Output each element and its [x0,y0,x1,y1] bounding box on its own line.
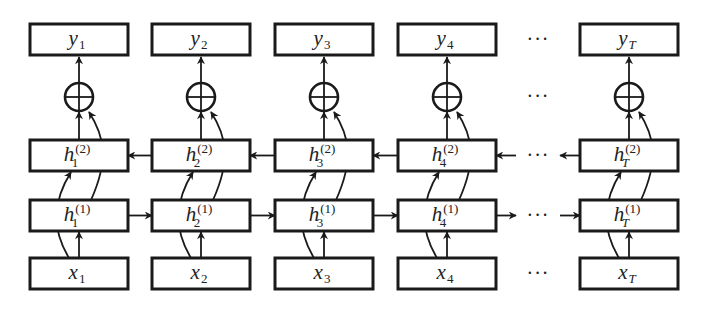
backward-hidden-node-1: h(2)1 [30,140,128,171]
combine-node-4 [433,83,461,111]
combine-node-T [615,83,643,111]
output-node-y-2: y2 [152,24,250,55]
ellipsis-marker: ··· [527,144,550,166]
input-node-x-2: x2 [152,258,250,289]
combine-node-3 [310,83,338,111]
ellipsis-marker: ··· [527,28,550,50]
combine-node-1 [65,83,93,111]
forward-hidden-node-3: h(1)3 [275,200,373,231]
output-node-y-3: y3 [275,24,373,55]
combine-node-2 [187,83,215,111]
ellipsis-marker: ··· [527,262,550,284]
backward-hidden-node-2: h(2)2 [152,140,250,171]
input-node-x-1: x1 [30,258,128,289]
input-node-x-T: xT [580,258,678,289]
backward-hidden-node-3: h(2)3 [275,140,373,171]
ellipsis-marker: ··· [527,204,550,226]
forward-hidden-node-2: h(1)2 [152,200,250,231]
output-node-y-1: y1 [30,24,128,55]
output-node-y-T: yT [580,24,678,55]
forward-hidden-node-1: h(1)1 [30,200,128,231]
forward-hidden-node-4: h(1)4 [398,200,496,231]
ellipsis-markers: ··············· [527,28,550,284]
input-node-x-3: x3 [275,258,373,289]
ellipsis-marker: ··· [527,85,550,107]
birnn-diagram: y1h(2)1h(1)1x1y2h(2)2h(1)2x2y3h(2)3h(1)3… [0,0,701,314]
backward-hidden-node-4: h(2)4 [398,140,496,171]
input-node-x-4: x4 [398,258,496,289]
nodes: y1h(2)1h(1)1x1y2h(2)2h(1)2x2y3h(2)3h(1)3… [30,24,678,289]
output-node-y-4: y4 [398,24,496,55]
forward-hidden-node-T: h(1)T [580,200,678,231]
backward-hidden-node-T: h(2)T [580,140,678,171]
